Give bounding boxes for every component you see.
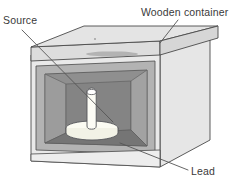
source-disc-rim <box>66 128 118 140</box>
label-source: Source <box>3 15 37 26</box>
lid-smudge <box>86 51 138 56</box>
lead-inner-left <box>45 74 66 143</box>
diagram-canvas: Source Wooden container Lead <box>0 0 238 192</box>
lid-speck <box>94 38 96 40</box>
right-side-panel <box>160 36 210 167</box>
label-lead: Lead <box>191 166 215 177</box>
label-wooden-container: Wooden container <box>141 7 228 18</box>
source-pillar-top <box>87 89 96 94</box>
container-cutaway-illustration <box>0 0 238 192</box>
right-side-panel-group <box>160 36 210 167</box>
